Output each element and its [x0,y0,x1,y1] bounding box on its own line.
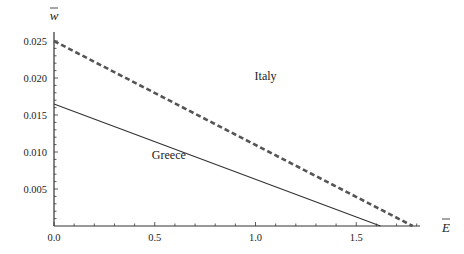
y-tick-label: 0.015 [23,110,47,121]
series-label-italy: Italy [255,69,277,83]
x-tick-label: 1.5 [350,232,363,243]
series-line-italy [54,41,413,226]
x-axis-title: E [441,220,450,235]
series-lines [54,41,413,226]
labels: ItalyGreece [152,69,277,162]
y-axis-title: w [50,8,59,23]
x-tick-label: 0.0 [47,232,60,243]
y-tick-label: 0.005 [23,184,47,195]
y-tick-label: 0.010 [23,147,47,158]
y-tick-label: 0.025 [23,36,47,47]
line-chart: 0.00.51.01.50.0050.0100.0150.0200.025wE … [0,0,464,254]
x-tick-label: 0.5 [148,232,161,243]
x-tick-label: 1.0 [249,232,262,243]
y-tick-label: 0.020 [23,73,47,84]
series-label-greece: Greece [152,148,186,162]
axes: 0.00.51.01.50.0050.0100.0150.0200.025wE [23,8,450,243]
series-line-greece [54,104,380,226]
